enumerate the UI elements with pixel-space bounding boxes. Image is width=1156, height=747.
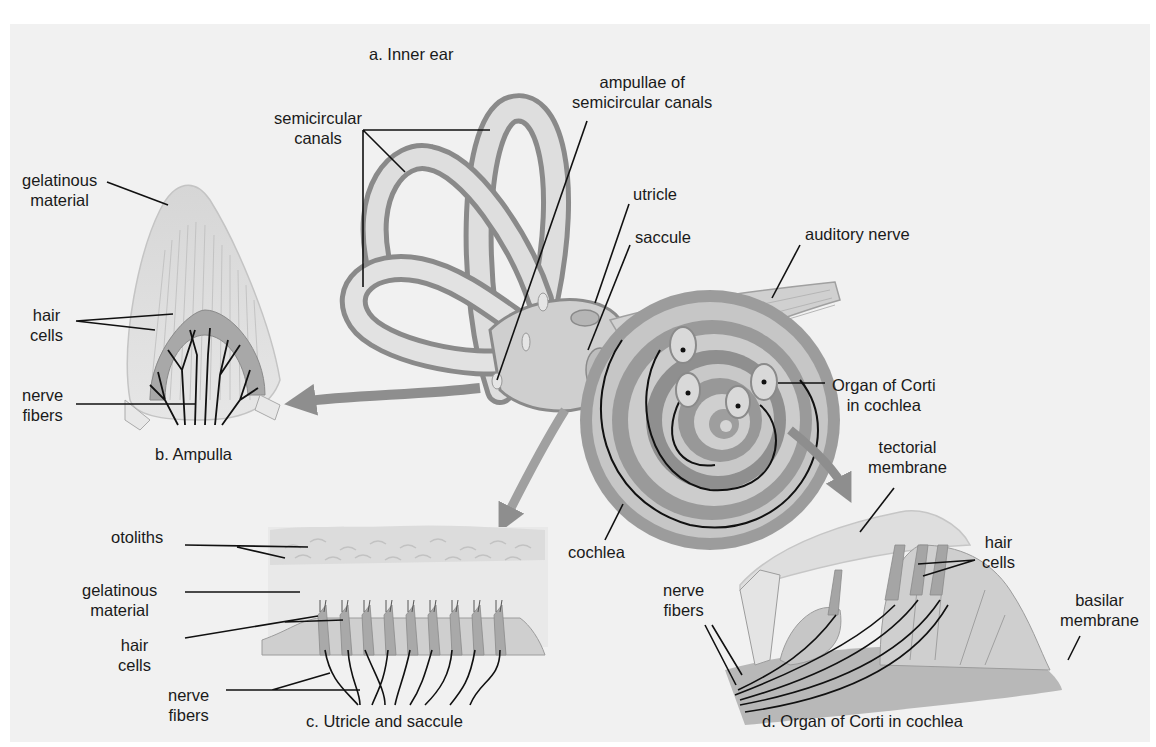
- ampulla-drawing: [76, 182, 280, 430]
- caption-organ-of-corti: d. Organ of Corti in cochlea: [762, 711, 963, 731]
- caption-inner-ear: a. Inner ear: [369, 44, 453, 64]
- label-semicircular-canals: semicircular canals: [274, 108, 362, 148]
- label-ampulla-gelatinous-material: gelatinous material: [22, 170, 97, 210]
- label-saccule: saccule: [635, 227, 691, 247]
- label-cochlea: cochlea: [568, 542, 625, 562]
- arrow-to-utricle: [505, 410, 565, 520]
- label-utricle-nerve-fibers: nerve fibers: [168, 685, 209, 725]
- label-ampulla-hair-cells: hair cells: [30, 305, 63, 345]
- label-utricle-gelatinous-material: gelatinous material: [82, 580, 157, 620]
- label-otoliths: otoliths: [111, 527, 163, 547]
- label-organ-of-corti: Organ of Corti in cochlea: [832, 375, 936, 415]
- arrow-to-ampulla: [300, 388, 480, 402]
- label-utricle: utricle: [633, 184, 677, 204]
- label-corti-nerve-fibers: nerve fibers: [663, 580, 704, 620]
- label-ampullae: ampullae of semicircular canals: [572, 72, 712, 112]
- label-ampulla-nerve-fibers: nerve fibers: [22, 385, 63, 425]
- inner-ear-illustration: [0, 0, 1156, 747]
- label-auditory-nerve: auditory nerve: [805, 224, 910, 244]
- inner-ear-drawing: [300, 108, 845, 550]
- label-tectorial-membrane: tectorial membrane: [868, 437, 947, 477]
- label-corti-hair-cells: hair cells: [982, 532, 1015, 572]
- utricle-saccule-drawing: [185, 525, 548, 705]
- label-basilar-membrane: basilar membrane: [1060, 590, 1139, 630]
- label-utricle-hair-cells: hair cells: [118, 635, 151, 675]
- caption-utricle-saccule: c. Utricle and saccule: [306, 711, 463, 731]
- caption-ampulla: b. Ampulla: [155, 444, 232, 464]
